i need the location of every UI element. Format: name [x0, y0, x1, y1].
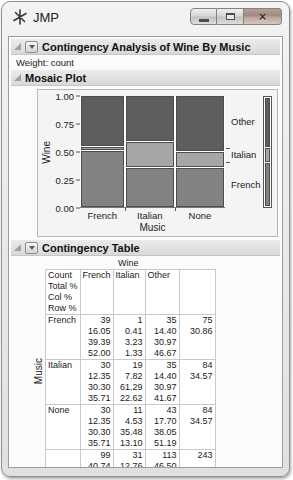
y-tick: 0.75	[56, 119, 81, 130]
x-category-label-italian: Italian	[137, 210, 162, 221]
contingency-table-body: CountTotal %Col %Row %FrenchItalianOther…	[46, 270, 216, 469]
mosaic-plot-grid: Wine 1.000.750.500.250.00 OtherItalianFr…	[40, 96, 274, 234]
table-cell: 8434.57	[179, 360, 215, 405]
mosaic-plot: Wine 1.000.750.500.250.00 OtherItalianFr…	[37, 89, 278, 237]
table-cell: 4317.7038.0551.19	[145, 405, 179, 450]
red-triangle-menu-button[interactable]	[25, 41, 38, 53]
column-header-total	[179, 270, 215, 315]
table-row: 9940.743112.7611346.50243	[46, 450, 216, 469]
y-tick-label: 0.25	[56, 175, 75, 186]
window-controls: ×	[190, 8, 282, 25]
mosaic-title: Mosaic Plot	[25, 72, 86, 84]
minimize-button[interactable]	[190, 8, 217, 25]
y-tick: 0.00	[56, 203, 81, 214]
mosaic-cell-italian-other[interactable]	[126, 96, 174, 141]
y-tick: 0.50	[56, 147, 81, 158]
red-triangle-icon	[29, 246, 35, 253]
table-cell: 3916.0539.3952.00	[80, 315, 113, 360]
window-title: JMP	[33, 10, 59, 25]
disclosure-triangle-icon[interactable]	[14, 43, 21, 50]
mosaic-plot-area	[80, 96, 225, 208]
mosaic-outline-header[interactable]: Mosaic Plot	[11, 70, 280, 86]
mosaic-cell-none-italian[interactable]	[176, 152, 224, 168]
table-row: French3916.0539.3952.0010.413.231.333514…	[46, 315, 216, 360]
table-row-group-label: Music	[33, 358, 44, 384]
disclosure-triangle-icon[interactable]	[14, 74, 21, 81]
x-category-label-french: French	[88, 210, 118, 221]
overall-segment-french	[265, 163, 270, 206]
overall-segment-italian	[265, 148, 270, 163]
y-tick: 1.00	[56, 91, 81, 102]
x-axis-ticks: FrenchItalianNone	[80, 208, 225, 221]
red-triangle-icon	[29, 45, 35, 52]
table-cell: 7530.86	[179, 315, 215, 360]
table-header-row: CountTotal %Col %Row %FrenchItalianOther	[46, 270, 216, 315]
mosaic-column-none	[175, 96, 225, 207]
table-cell: 3112.76	[113, 450, 145, 469]
mosaic-cell-italian-french[interactable]	[126, 168, 174, 207]
table-area: Music CountTotal %Col %Row %FrenchItalia…	[31, 269, 280, 468]
mosaic-cell-french-italian[interactable]	[81, 147, 124, 150]
jmp-window: JMP × Contingency Analysis of Wine By Mu…	[1, 1, 290, 477]
column-header-italian: Italian	[113, 270, 145, 315]
right-label-other: Other	[231, 115, 255, 126]
contingency-table: CountTotal %Col %Row %FrenchItalianOther…	[45, 269, 216, 468]
jmp-logo-icon	[12, 9, 28, 25]
table-outline-header[interactable]: Contingency Table	[11, 240, 280, 256]
y-tick-label: 0.50	[56, 147, 75, 158]
x-category-label-none: None	[189, 210, 212, 221]
weight-note: Weight: count	[11, 55, 280, 70]
disclosure-triangle-icon[interactable]	[14, 244, 21, 251]
right-axis-tick-mark	[226, 162, 230, 163]
x-axis-tick-mark	[125, 208, 126, 211]
table-cell: 3514.4030.9746.67	[145, 315, 179, 360]
table-row-group-label-cell: Music	[31, 269, 45, 468]
column-header-other: Other	[145, 270, 179, 315]
x-axis-label: Music	[80, 221, 225, 234]
analysis-outline-header[interactable]: Contingency Analysis of Wine By Music	[11, 39, 280, 55]
table-cell: 10.413.231.33	[113, 315, 145, 360]
y-axis-label-cell: Wine	[40, 96, 53, 208]
mosaic-cell-french-other[interactable]	[81, 96, 124, 146]
table-cell: 114.5335.4813.10	[113, 405, 145, 450]
right-label-italian: Italian	[231, 149, 256, 160]
table-col-group-label-row: Wine	[11, 256, 280, 269]
row-label-italian: Italian	[46, 360, 81, 405]
row-label-french: French	[46, 315, 81, 360]
table-cell: 197.8261.2922.62	[113, 360, 145, 405]
table-cell: 3012.3530.3035.71	[80, 360, 113, 405]
close-button[interactable]: ×	[244, 8, 282, 25]
minimize-icon	[199, 19, 209, 22]
mosaic-cell-french-french[interactable]	[81, 151, 124, 207]
red-triangle-menu-button[interactable]	[25, 242, 38, 254]
table-cell: 243	[179, 450, 215, 469]
close-icon: ×	[259, 10, 267, 23]
table-title: Contingency Table	[42, 242, 140, 254]
column-header-french: French	[80, 270, 113, 315]
table-cell: 3514.4030.9741.67	[145, 360, 179, 405]
y-tick-label: 0.00	[56, 203, 75, 214]
table-cell: 3012.3530.3035.71	[80, 405, 113, 450]
right-axis-tick-mark	[226, 148, 230, 149]
right-category-labels: OtherItalianFrench	[225, 96, 263, 208]
table-cell: 11346.50	[145, 450, 179, 469]
y-tick: 0.25	[56, 175, 81, 186]
table-cell: 9940.74	[80, 450, 113, 469]
maximize-icon	[226, 13, 235, 20]
title-bar[interactable]: JMP ×	[2, 2, 289, 32]
y-axis-label: Wine	[41, 141, 52, 164]
overall-proportion-bar	[263, 96, 272, 208]
y-tick-label: 1.00	[56, 91, 75, 102]
row-label-none: None	[46, 405, 81, 450]
table-col-group-label: Wine	[118, 258, 139, 268]
x-axis-tick-mark	[175, 208, 176, 211]
table-cell: 8434.57	[179, 405, 215, 450]
right-label-french: French	[231, 179, 261, 190]
mosaic-column-french	[80, 96, 125, 207]
maximize-button[interactable]	[217, 8, 244, 25]
mosaic-cell-italian-italian[interactable]	[126, 142, 174, 167]
y-axis-ticks: 1.000.750.500.250.00	[53, 96, 80, 208]
table-row: None3012.3530.3035.71114.5335.4813.10431…	[46, 405, 216, 450]
mosaic-cell-none-other[interactable]	[176, 96, 224, 151]
mosaic-cell-none-french[interactable]	[176, 168, 224, 207]
